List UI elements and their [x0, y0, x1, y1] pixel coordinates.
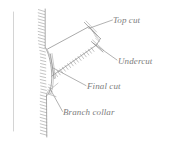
leader-undercut [93, 43, 117, 60]
label-undercut: Undercut [118, 56, 152, 66]
label-top-cut: Top cut [113, 15, 140, 25]
label-branch-collar: Branch collar [63, 107, 115, 117]
leader-top-cut [89, 20, 113, 28]
leader-branch-collar [50, 88, 63, 111]
trunk [38, 9, 47, 137]
pruning-diagram: .ln { fill:none; stroke:#8d8d8d; stroke-… [0, 0, 170, 145]
top-cut-line [84, 21, 96, 33]
label-final-cut: Final cut [87, 81, 121, 91]
figure-panel: .ln { fill:none; stroke:#8d8d8d; stroke-… [0, 0, 170, 145]
